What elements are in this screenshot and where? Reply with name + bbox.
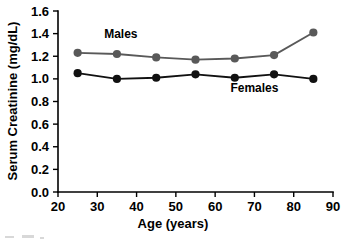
data-point: [270, 51, 278, 59]
data-point: [309, 75, 317, 83]
data-point: [191, 70, 199, 78]
data-point: [113, 50, 121, 58]
series-females: [74, 69, 318, 83]
scan-artifact: [5, 236, 14, 238]
y-tick-label: 1.2: [31, 49, 49, 64]
scan-artifact: [40, 237, 44, 239]
x-axis-title: Age (years): [138, 216, 209, 231]
series-annotation-females: Females: [230, 81, 278, 95]
data-point: [270, 70, 278, 78]
data-point: [152, 53, 160, 61]
y-tick-label: 0.6: [31, 117, 49, 132]
y-tick-label: 1.6: [31, 4, 49, 19]
x-tick-label: 20: [51, 199, 65, 214]
series-annotation-males: Males: [104, 27, 138, 41]
y-tick-label: 1.4: [31, 26, 50, 41]
x-axis-tick-labels: 2030405060708090: [51, 199, 340, 214]
data-point: [191, 56, 199, 64]
x-tick-label: 90: [326, 199, 340, 214]
y-tick-label: 0.2: [31, 162, 49, 177]
data-point: [74, 69, 82, 77]
y-axis-title: Serum Creatinine (mg/dL): [5, 22, 20, 181]
data-point: [113, 75, 121, 83]
series-annotation-layer: MalesFemales: [104, 27, 279, 95]
x-tick-label: 30: [90, 199, 104, 214]
scan-artifact: [22, 235, 34, 238]
x-tick-label: 40: [129, 199, 143, 214]
x-tick-label: 60: [208, 199, 222, 214]
x-tick-label: 50: [169, 199, 183, 214]
x-tick-label: 80: [286, 199, 300, 214]
y-tick-label: 0.4: [31, 139, 50, 154]
y-tick-label: 0.8: [31, 94, 49, 109]
data-point: [309, 28, 317, 36]
chart-canvas: 0.00.20.40.60.81.01.21.41.6 203040506070…: [0, 0, 347, 243]
data-point: [74, 49, 82, 57]
y-tick-label: 0.0: [31, 185, 49, 200]
x-tick-label: 70: [247, 199, 261, 214]
y-tick-label: 1.0: [31, 71, 49, 86]
data-point: [152, 74, 160, 82]
serum-creatinine-line-chart: 0.00.20.40.60.81.01.21.41.6 203040506070…: [0, 0, 347, 243]
data-point: [231, 54, 239, 62]
y-axis-tick-labels: 0.00.20.40.60.81.01.21.41.6: [31, 4, 50, 200]
